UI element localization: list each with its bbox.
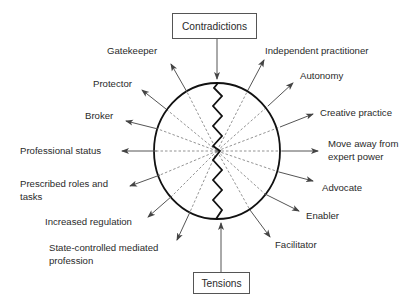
label-advocate: Advocate xyxy=(322,182,362,194)
label-prescribed-roles: Prescribed roles and tasks xyxy=(20,178,108,203)
tensions-box: Tensions xyxy=(193,272,250,294)
label-protector: Protector xyxy=(93,78,132,90)
label-state-controlled-line1: State-controlled mediated xyxy=(49,242,158,254)
label-gatekeeper: Gatekeeper xyxy=(107,45,157,57)
label-facilitator: Facilitator xyxy=(275,239,317,251)
left-arrows xyxy=(122,64,190,240)
label-independent-practitioner: Independent practitioner xyxy=(265,45,368,57)
label-state-controlled: State-controlled mediated profession xyxy=(49,242,158,267)
label-move-away-line2: expert power xyxy=(328,151,398,163)
label-move-away-line1: Move away from xyxy=(328,138,398,150)
label-move-away-expert-power: Move away from expert power xyxy=(328,138,398,163)
label-professional-status: Professional status xyxy=(20,145,101,157)
label-creative-practice: Creative practice xyxy=(320,107,392,119)
label-autonomy: Autonomy xyxy=(300,70,343,82)
label-enabler: Enabler xyxy=(306,210,339,222)
label-increased-regulation: Increased regulation xyxy=(45,216,132,228)
label-prescribed-roles-line1: Prescribed roles and xyxy=(20,178,108,190)
label-state-controlled-line2: profession xyxy=(49,255,158,267)
label-prescribed-roles-line2: tasks xyxy=(20,191,108,203)
contradictions-box: Contradictions xyxy=(172,13,257,39)
label-broker: Broker xyxy=(85,110,113,122)
